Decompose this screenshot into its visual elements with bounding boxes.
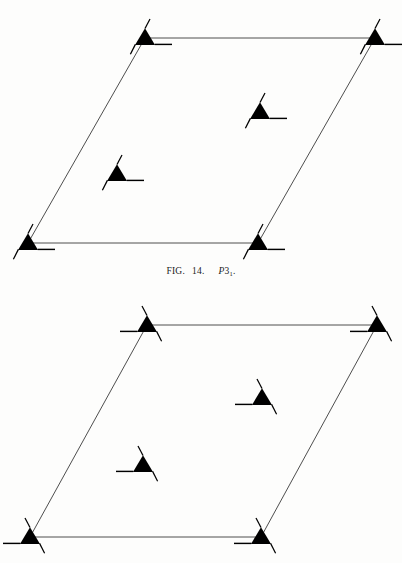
screw-axis-3-2-icon <box>234 518 276 553</box>
symmetry-elements-group <box>13 19 402 259</box>
screw-axis-3-1-icon <box>245 93 287 128</box>
cell-edge-right <box>261 325 377 537</box>
screw-axis-3-1-icon <box>130 19 172 54</box>
screw-axis-3-2-icon <box>235 379 277 414</box>
space-group-diagram-p31 <box>0 0 402 262</box>
cell-edge-left <box>28 38 145 243</box>
screw-axis-3-1-icon <box>360 19 402 54</box>
screw-axis-3-2-icon <box>116 446 158 481</box>
cell-edge-left <box>30 325 147 537</box>
caption-symbol-period: . <box>233 266 236 276</box>
space-group-diagram-p32 <box>0 292 402 563</box>
screw-axis-3-1-icon <box>243 224 285 259</box>
caption-number: 14. <box>192 266 204 276</box>
caption-label: FIG. <box>167 266 185 276</box>
unit-cell-outline <box>28 38 375 243</box>
screw-axis-3-1-icon <box>102 155 144 190</box>
figure-plate: FIG.14.P31. <box>0 0 402 563</box>
screw-axis-3-1-icon <box>13 224 55 259</box>
unit-cell-outline <box>30 325 377 537</box>
cell-edge-right <box>258 38 375 243</box>
figure-caption: FIG.14.P31. <box>0 266 402 277</box>
screw-axis-3-2-icon <box>3 518 45 553</box>
symmetry-elements-group <box>3 306 392 553</box>
